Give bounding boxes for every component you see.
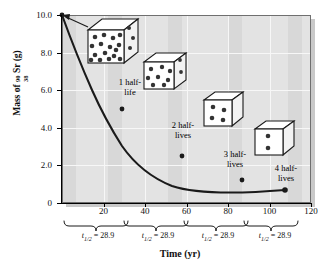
x-axis-title: Time (yr) [110, 248, 250, 259]
atomic-number: 38 [22, 76, 29, 83]
annotation-1-line1: 1 half- [119, 77, 141, 87]
half-life-label-2: t1/2 = 28.9 [126, 231, 190, 242]
y-tick-mark-2 [57, 165, 61, 166]
y-tick-mark-6 [57, 90, 61, 91]
brace-4 [244, 221, 298, 231]
brace-2 [124, 221, 188, 231]
annotation-4-half-lives: 4 half- lives [262, 164, 310, 183]
y-axis-title: Mass of 9038Sr (g) [12, 23, 22, 143]
y-tick-label-0: 0 [22, 199, 52, 208]
y-tick-label-4: 4.0 [22, 124, 52, 133]
half-life-label-3: t1/2 = 28.9 [186, 231, 250, 242]
half-life-value-2: = 28.9 [152, 231, 175, 240]
annotation-4-line2: lives [278, 173, 294, 183]
half-life-value-1: = 28.9 [92, 231, 115, 240]
half-life-sub-2: 1/2 [144, 236, 152, 242]
x-tick-label-120: 120 [296, 207, 326, 216]
y-tick-label-6: 6.0 [22, 86, 52, 95]
annotation-2-half-lives: 2 half- lives [159, 121, 207, 140]
half-life-value-4: = 28.9 [269, 231, 292, 240]
y-tick-label-8: 8.0 [22, 49, 52, 58]
annotation-2-line1: 2 half- [172, 120, 194, 130]
annotation-3-line2: lives [227, 159, 243, 169]
half-life-label-1: t1/2 = 28.9 [66, 231, 130, 242]
y-tick-mark-10 [57, 15, 61, 16]
y-axis-title-prefix: Mass of [12, 82, 22, 116]
x-tick-label-60: 60 [172, 207, 202, 216]
decay-chart-figure: 1 half- life 2 half- lives 3 half- lives… [0, 0, 332, 271]
x-tick-label-100: 100 [255, 207, 285, 216]
y-axis-line [61, 15, 62, 204]
y-tick-label-10: 10.0 [22, 11, 52, 20]
y-tick-mark-8 [57, 53, 61, 54]
mass-number: 90 [14, 76, 21, 83]
half-life-sub-1: 1/2 [84, 236, 92, 242]
y-axis-title-suffix: (g) [12, 50, 22, 63]
annotation-3-line1: 3 half- [224, 149, 246, 159]
x-tick-label-20: 20 [89, 207, 119, 216]
data-point-3 [240, 178, 245, 183]
cube-icon-2-half-lives [204, 92, 243, 126]
brace-1 [64, 221, 128, 231]
annotation-2-line2: lives [175, 130, 191, 140]
annotation-4-line1: 4 half- [275, 163, 297, 173]
cube-icon-0-half-lives [88, 19, 138, 63]
y-axis-title-element: Sr [12, 64, 22, 73]
half-life-sub-4: 1/2 [261, 236, 269, 242]
y-tick-mark-0 [57, 203, 61, 204]
half-life-value-3: = 28.9 [212, 231, 235, 240]
y-tick-mark-4 [57, 128, 61, 129]
half-life-braces [64, 221, 298, 231]
annotation-3-half-lives: 3 half- lives [211, 150, 259, 169]
annotation-1-half-life: 1 half- life [108, 78, 152, 97]
brace-3 [184, 221, 248, 231]
x-tick-label-80: 80 [213, 207, 243, 216]
data-point-4 [282, 187, 288, 193]
y-tick-label-2: 2.0 [22, 161, 52, 170]
half-life-label-4: t1/2 = 28.9 [243, 231, 307, 242]
data-point-2 [180, 154, 185, 159]
annotation-1-line2: life [124, 87, 135, 97]
half-life-sub-3: 1/2 [204, 236, 212, 242]
data-point-1 [120, 107, 125, 112]
cube-icon-3-half-lives [255, 121, 294, 155]
x-tick-label-40: 40 [130, 207, 160, 216]
